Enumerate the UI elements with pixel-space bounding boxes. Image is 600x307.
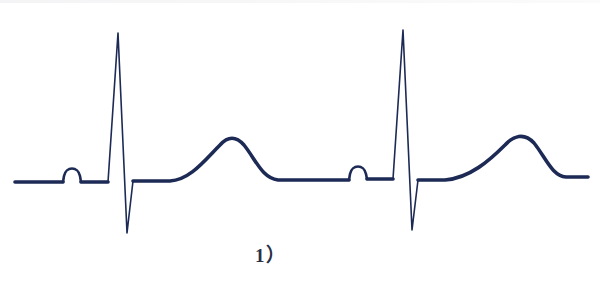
figure-caption: 1） [255,240,286,267]
st-segment-t-wave-2 [418,136,588,180]
p-wave-2 [349,167,367,181]
ecg-trace [15,30,588,233]
qrs-complex-1 [108,33,133,233]
ecg-waveform-diagram [0,0,600,307]
p-wave-1 [63,169,81,183]
st-segment-t-wave-1 [133,138,349,181]
qrs-complex-2 [393,30,418,230]
